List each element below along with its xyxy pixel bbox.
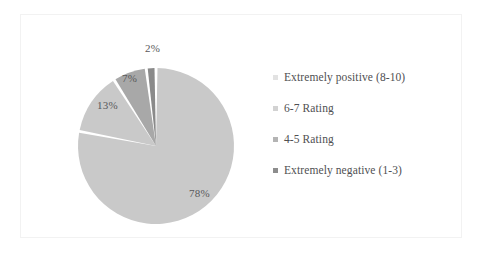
legend-item-label: 4-5 Rating (284, 133, 334, 145)
legend-item-4-5-rating[interactable]: 4-5 Rating (273, 123, 453, 154)
slice-value-label-3: 7% (122, 72, 137, 84)
pie-slice-group (78, 68, 234, 224)
pie-chart-svg (61, 51, 251, 241)
chart-frame: 78% 13% 7% 2% Extremely positive (8-10) … (20, 14, 462, 238)
legend-item-label: Extremely positive (8-10) (284, 71, 405, 83)
legend-item-label: Extremely negative (1-3) (284, 164, 402, 176)
legend-item-extremely-positive[interactable]: Extremely positive (8-10) (273, 61, 453, 92)
legend-marker-icon (273, 106, 278, 111)
legend-marker-icon (273, 168, 278, 173)
slice-value-label-4: 2% (145, 42, 160, 54)
legend-marker-icon (273, 137, 278, 142)
chart-legend: Extremely positive (8-10) 6-7 Rating 4-5… (273, 61, 453, 185)
legend-item-label: 6-7 Rating (284, 102, 334, 114)
slice-value-label-1: 78% (189, 187, 210, 199)
pie-chart: 78% 13% 7% 2% (61, 51, 251, 241)
legend-marker-icon (273, 75, 278, 80)
legend-item-extremely-negative[interactable]: Extremely negative (1-3) (273, 154, 453, 185)
slice-value-label-2: 13% (97, 99, 118, 111)
legend-item-6-7-rating[interactable]: 6-7 Rating (273, 92, 453, 123)
